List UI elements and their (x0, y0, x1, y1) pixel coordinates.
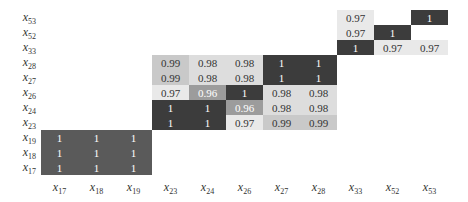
heatmap-chart: x53x52x33x28x27x26x24x23x19x18x17x17x18x… (0, 0, 468, 202)
heatmap-cell: 1 (226, 85, 263, 100)
heatmap-cell: 1 (41, 160, 78, 175)
heatmap-cell: 1 (337, 40, 374, 55)
heatmap-cell: 0.97 (411, 40, 448, 55)
heatmap-cell: 1 (263, 70, 300, 85)
heatmap-cell: 1 (41, 145, 78, 160)
heatmap-cell: 1 (78, 160, 115, 175)
heatmap-cell: 0.98 (300, 85, 337, 100)
heatmap-cell: 0.98 (300, 100, 337, 115)
x-axis-label: x28 (300, 180, 337, 196)
heatmap-cell: 0.99 (300, 115, 337, 130)
heatmap-cell: 1 (300, 70, 337, 85)
heatmap-cell: 1 (411, 10, 448, 25)
heatmap-cell: 0.98 (189, 70, 226, 85)
heatmap-cell: 0.96 (226, 100, 263, 115)
heatmap-cell: 0.98 (226, 55, 263, 70)
heatmap-cell: 0.97 (226, 115, 263, 130)
x-axis-label: x17 (41, 180, 78, 196)
heatmap-cell: 1 (189, 115, 226, 130)
x-axis-label: x27 (263, 180, 300, 196)
heatmap-cell: 0.99 (263, 115, 300, 130)
x-axis-label: x33 (337, 180, 374, 196)
heatmap-cell: 1 (300, 55, 337, 70)
heatmap-cell: 1 (41, 130, 78, 145)
x-axis-label: x19 (115, 180, 152, 196)
heatmap-cell: 0.97 (152, 85, 189, 100)
x-axis-label: x23 (152, 180, 189, 196)
heatmap-cell: 0.99 (152, 55, 189, 70)
heatmap-cell: 0.96 (189, 85, 226, 100)
heatmap-cell: 1 (78, 145, 115, 160)
x-axis-label: x26 (226, 180, 263, 196)
heatmap-cell: 0.98 (263, 85, 300, 100)
heatmap-cell: 1 (152, 100, 189, 115)
heatmap-cell: 1 (115, 145, 152, 160)
heatmap-cell: 0.97 (337, 10, 374, 25)
heatmap-cell: 0.99 (152, 70, 189, 85)
heatmap-cell: 1 (374, 25, 411, 40)
x-axis-label: x18 (78, 180, 115, 196)
x-axis-label: x53 (411, 180, 448, 196)
y-axis-label: x17 (0, 160, 36, 179)
heatmap-cell: 0.98 (263, 100, 300, 115)
heatmap-cell: 0.97 (374, 40, 411, 55)
heatmap-cell: 1 (263, 55, 300, 70)
x-axis-label: x52 (374, 180, 411, 196)
heatmap-cell: 0.98 (189, 55, 226, 70)
heatmap-cell: 0.98 (226, 70, 263, 85)
heatmap-cell: 1 (78, 130, 115, 145)
heatmap-cell: 1 (152, 115, 189, 130)
x-axis-label: x24 (189, 180, 226, 196)
heatmap-cell: 1 (115, 130, 152, 145)
heatmap-cell: 0.97 (337, 25, 374, 40)
heatmap-cell: 1 (115, 160, 152, 175)
heatmap-cell: 1 (189, 100, 226, 115)
